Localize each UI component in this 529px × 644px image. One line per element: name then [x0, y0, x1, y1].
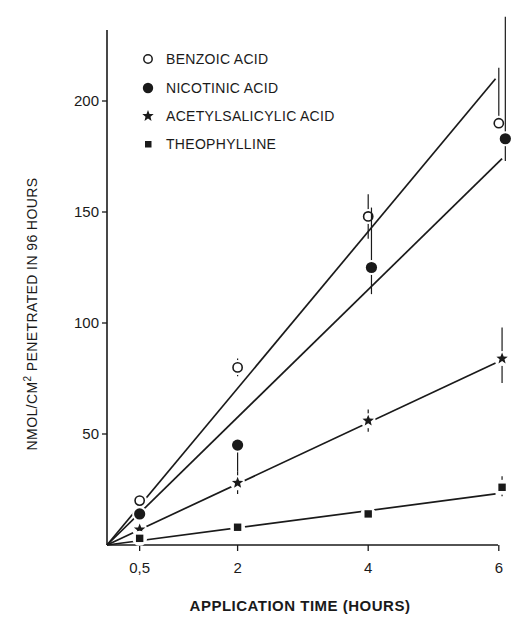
- open-circle-marker-icon: [135, 496, 144, 505]
- data-points: [132, 17, 513, 546]
- filled-circle-marker-icon: [500, 133, 511, 144]
- filled-circle-marker-icon: [232, 440, 243, 451]
- filled-square-legend-icon: [145, 141, 152, 148]
- x-axis-title: APPLICATION TIME (HOURS): [190, 597, 411, 614]
- x-tick-label: 2: [233, 559, 241, 576]
- open-circle-legend-icon: [144, 55, 152, 63]
- legend-label: THEOPHYLLINE: [166, 136, 276, 152]
- open-circle-marker-icon: [494, 119, 503, 128]
- legend-label: BENZOIC ACID: [166, 51, 268, 67]
- legend-item: NICOTINIC ACID: [143, 80, 279, 96]
- legend-label: ACETYLSALICYLIC ACID: [166, 108, 335, 124]
- y-axis-title: NMOL/CM2 PENETRATED IN 96 HOURS: [22, 178, 40, 451]
- x-tick-label: 6: [495, 559, 503, 576]
- filled-circle-marker-icon: [366, 262, 377, 273]
- filled-square-marker-icon: [234, 524, 241, 531]
- legend: BENZOIC ACIDNICOTINIC ACIDACETYLSALICYLI…: [142, 51, 334, 152]
- legend-item: ACETYLSALICYLIC ACID: [142, 108, 334, 124]
- y-tick-label: 150: [74, 203, 99, 220]
- filled-square-marker-icon: [498, 484, 505, 491]
- y-axis-title-main: NMOL/CM: [24, 382, 40, 451]
- y-axis-title-rest: PENETRATED IN 96 HOURS: [24, 178, 40, 376]
- filled-circle-marker-icon: [134, 508, 145, 519]
- legend-label: NICOTINIC ACID: [166, 80, 278, 96]
- filled-square-marker-icon: [136, 535, 143, 542]
- x-tick-label: 4: [364, 559, 372, 576]
- filled-square-marker-icon: [365, 510, 372, 517]
- y-tick-label: 50: [82, 425, 99, 442]
- chart: 501001502000,5246 BENZOIC ACIDNICOTINIC …: [0, 0, 529, 644]
- star-marker-icon: [142, 110, 153, 121]
- legend-item: THEOPHYLLINE: [145, 136, 276, 152]
- y-tick-label: 200: [74, 92, 99, 109]
- open-circle-marker-icon: [233, 363, 242, 372]
- fit-line: [107, 494, 496, 545]
- filled-circle-legend-icon: [143, 83, 153, 93]
- fit-line: [107, 363, 496, 545]
- x-tick-label: 0,5: [129, 559, 150, 576]
- y-tick-label: 100: [74, 314, 99, 331]
- legend-item: BENZOIC ACID: [144, 51, 269, 67]
- fit-line: [107, 159, 502, 545]
